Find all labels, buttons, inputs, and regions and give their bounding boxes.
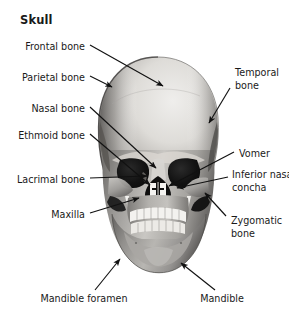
mental-foramen-left (135, 242, 137, 244)
label-zygomatic-bone: Zygomatic bone (231, 215, 282, 240)
label-lacrimal-bone: Lacrimal bone (17, 174, 85, 187)
page-title: Skull (20, 13, 53, 27)
label-temporal-bone: Temporal bone (235, 67, 279, 92)
label-frontal-bone: Frontal bone (25, 41, 85, 54)
skull-diagram-figure: Skull Frontal bone Parietal bone Nasal b… (0, 0, 289, 319)
label-vomer: Vomer (239, 148, 270, 161)
label-inferior-nasal-concha: Inferior nasal concha (232, 169, 289, 194)
label-ethmoid-bone: Ethmoid bone (18, 130, 85, 143)
label-parietal-bone: Parietal bone (22, 72, 85, 85)
mental-foramen-right (180, 242, 182, 244)
label-maxilla: Maxilla (51, 209, 85, 222)
label-nasal-bone: Nasal bone (31, 103, 85, 116)
label-mandible: Mandible (200, 293, 244, 306)
label-mandible-foramen: Mandible foramen (40, 293, 127, 306)
